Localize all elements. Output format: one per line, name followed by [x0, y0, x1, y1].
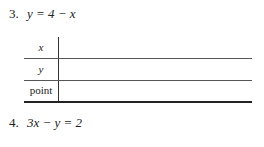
row-divider	[24, 80, 252, 81]
problem-number: 3.	[9, 6, 19, 21]
row-label-point: point	[24, 84, 58, 96]
row-divider	[24, 58, 252, 59]
problem-3: 3. y = 4 − x	[9, 6, 76, 22]
problem-4: 4. 3x − y = 2	[9, 115, 82, 131]
problem-number: 4.	[9, 115, 19, 130]
table-bottom-rule	[24, 101, 252, 103]
problem-equation: 3x − y = 2	[27, 115, 82, 130]
row-label-y: y	[24, 63, 58, 75]
table-vertical-divider	[58, 37, 59, 102]
problem-equation: y = 4 − x	[27, 6, 76, 21]
row-label-x: x	[24, 41, 58, 53]
